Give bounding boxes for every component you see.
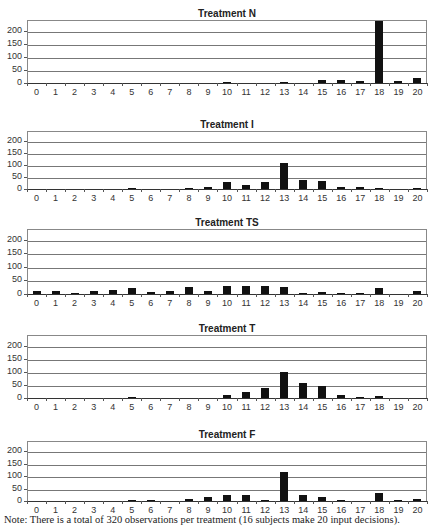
x-tick-label: 20 <box>408 193 426 203</box>
x-axis <box>27 83 427 84</box>
x-tick <box>332 501 333 504</box>
gridline <box>28 452 426 453</box>
x-tick <box>313 398 314 401</box>
x-tick-label: 14 <box>294 87 312 97</box>
x-tick <box>103 398 104 401</box>
x-tick <box>275 189 276 192</box>
chart-title: Treatment I <box>27 119 427 130</box>
x-tick-label: 17 <box>351 402 369 412</box>
x-tick <box>313 501 314 504</box>
bar <box>375 493 383 501</box>
y-tick-label: 50 <box>0 64 22 74</box>
x-tick-label: 14 <box>294 402 312 412</box>
x-tick-label: 17 <box>351 298 369 308</box>
x-tick <box>389 294 390 297</box>
x-tick <box>198 501 199 504</box>
x-tick-label: 6 <box>142 402 160 412</box>
x-tick-label: 7 <box>161 193 179 203</box>
y-tick <box>24 476 27 477</box>
x-tick-label: 11 <box>237 402 255 412</box>
x-tick <box>27 189 28 192</box>
x-tick <box>237 83 238 86</box>
x-tick-label: 1 <box>47 402 65 412</box>
bar <box>318 497 326 501</box>
x-tick-label: 2 <box>66 87 84 97</box>
x-tick-label: 14 <box>294 298 312 308</box>
x-tick <box>351 398 352 401</box>
y-tick-label: 100 <box>0 366 22 376</box>
plot-area <box>27 131 427 189</box>
bar <box>223 82 231 83</box>
x-tick-label: 10 <box>218 402 236 412</box>
x-axis <box>27 294 427 295</box>
bar <box>204 291 212 294</box>
x-tick-label: 7 <box>161 402 179 412</box>
x-tick <box>351 83 352 86</box>
gridline <box>28 373 426 374</box>
bar <box>223 286 231 294</box>
x-tick-label: 16 <box>332 193 350 203</box>
bar <box>185 188 193 189</box>
x-tick-label: 18 <box>370 402 388 412</box>
x-tick <box>408 294 409 297</box>
y-tick-label: 100 <box>0 261 22 271</box>
x-axis <box>27 189 427 190</box>
y-tick <box>24 385 27 386</box>
y-tick-label: 200 <box>0 135 22 145</box>
x-tick <box>275 83 276 86</box>
bar <box>261 500 269 501</box>
y-tick-label: 100 <box>0 51 22 61</box>
y-tick-label: 150 <box>0 147 22 157</box>
bar <box>299 293 307 294</box>
x-tick-label: 9 <box>199 87 217 97</box>
x-tick-label: 10 <box>218 193 236 203</box>
x-tick-label: 12 <box>256 298 274 308</box>
bar <box>394 500 402 501</box>
x-tick-label: 0 <box>28 402 46 412</box>
x-tick-label: 11 <box>237 193 255 203</box>
x-tick <box>122 294 123 297</box>
plot-area <box>27 335 427 398</box>
gridline <box>28 45 426 46</box>
y-tick-label: 50 <box>0 171 22 181</box>
bar <box>299 495 307 501</box>
bar <box>337 293 345 294</box>
bar <box>375 21 383 83</box>
x-tick-label: 13 <box>275 402 293 412</box>
x-tick-label: 10 <box>218 298 236 308</box>
x-tick-label: 8 <box>180 298 198 308</box>
x-tick <box>122 398 123 401</box>
x-tick-label: 9 <box>199 298 217 308</box>
y-tick-label: 200 <box>0 234 22 244</box>
gridline <box>28 142 426 143</box>
bar <box>280 287 288 294</box>
y-tick <box>24 359 27 360</box>
y-tick-label: 50 <box>0 483 22 493</box>
x-tick <box>332 83 333 86</box>
gridline <box>28 178 426 179</box>
gridline <box>28 386 426 387</box>
x-tick <box>84 189 85 192</box>
x-tick-label: 12 <box>256 87 274 97</box>
gridline <box>28 281 426 282</box>
x-tick <box>27 398 28 401</box>
x-tick-label: 10 <box>218 87 236 97</box>
bar <box>128 500 136 501</box>
chart-title: Treatment T <box>27 323 427 334</box>
x-tick <box>217 83 218 86</box>
x-tick-label: 5 <box>123 298 141 308</box>
x-tick-label: 14 <box>294 193 312 203</box>
gridline <box>28 360 426 361</box>
bar <box>356 293 364 294</box>
x-tick <box>313 83 314 86</box>
gridline <box>28 347 426 348</box>
plot-area <box>27 20 427 83</box>
x-tick-label: 15 <box>313 402 331 412</box>
x-tick <box>370 398 371 401</box>
y-tick-label: 0 <box>0 77 22 87</box>
y-tick <box>24 165 27 166</box>
x-tick-label: 12 <box>256 402 274 412</box>
x-tick-label: 6 <box>142 87 160 97</box>
bar <box>242 392 250 398</box>
bar <box>185 287 193 294</box>
